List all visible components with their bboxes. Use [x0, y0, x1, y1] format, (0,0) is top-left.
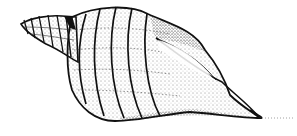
shell-body-whorl	[68, 7, 261, 121]
shell-drawing	[0, 0, 297, 136]
shell-illustration: seashell line drawing	[0, 0, 297, 136]
